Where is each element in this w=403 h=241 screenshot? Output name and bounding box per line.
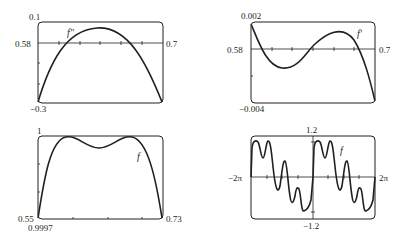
x-max-label: 0.73 <box>166 214 182 224</box>
plot-f-full: 1.2 −1.2 −2π 2π f <box>228 125 389 231</box>
y-min-label: 0.9997 <box>28 223 53 233</box>
x-min-label: 0.58 <box>227 45 243 55</box>
x-max-label: 0.7 <box>166 39 178 49</box>
x-ticks <box>38 164 142 219</box>
y-max-label: 0.1 <box>29 12 40 22</box>
x-max-label: 2π <box>379 173 389 183</box>
y-min-label: −0.3 <box>30 104 47 114</box>
y-max-label: 0.002 <box>241 11 261 21</box>
x-ticks <box>251 47 354 76</box>
plot-f-zoomed: 1 0.55 0.9997 0.73 f <box>18 126 182 233</box>
function-label: f <box>137 151 141 162</box>
y-min-label: −1.2 <box>303 221 319 231</box>
y-max-label: 1 <box>37 126 42 136</box>
function-label: f′ <box>357 28 363 39</box>
figure: 0.1 −0.3 0.58 0.7 f″ 0.002 −0.004 0.58 0… <box>0 0 403 241</box>
plot-f-double-prime: 0.1 −0.3 0.58 0.7 f″ <box>15 12 178 114</box>
function-label: f″ <box>67 27 75 38</box>
x-min-label: 0.58 <box>15 39 31 49</box>
x-max-label: 0.7 <box>379 45 391 55</box>
y-min-label: −0.004 <box>239 104 265 114</box>
x-min-label: −2π <box>228 173 243 183</box>
curve-f <box>38 137 162 218</box>
plot-f-prime: 0.002 −0.004 0.58 0.7 f′ <box>227 11 391 114</box>
function-label: f <box>340 145 344 156</box>
curve-f-double-prime <box>38 28 162 102</box>
y-max-label: 1.2 <box>306 125 317 135</box>
